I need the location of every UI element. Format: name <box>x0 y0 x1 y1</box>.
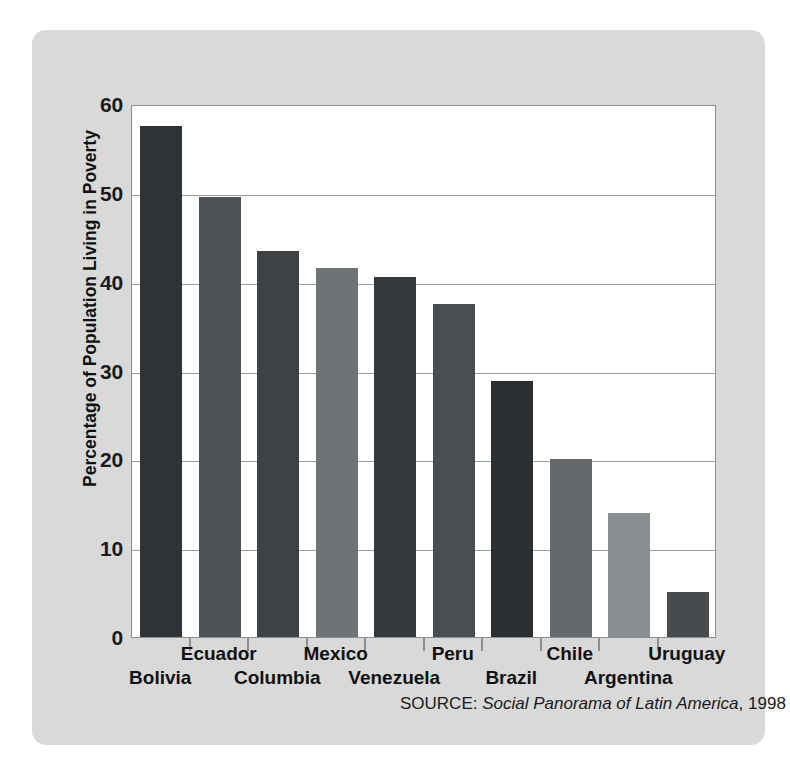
y-axis-tick-label: 60 <box>63 93 123 117</box>
x-axis-label-argentina: Argentina <box>584 667 673 689</box>
x-axis-label-uruguay: Uruguay <box>648 643 725 665</box>
x-axis-label-peru: Peru <box>432 643 474 665</box>
x-axis-tick-mark <box>540 638 542 651</box>
y-axis-tick-label: 50 <box>63 182 123 206</box>
bar <box>550 459 592 637</box>
y-axis-tick-label: 20 <box>63 448 123 472</box>
x-axis-label-brazil: Brazil <box>485 667 537 689</box>
x-axis-label-bolivia: Bolivia <box>129 667 191 689</box>
source-title: Social Panorama of Latin America <box>482 694 738 713</box>
bar <box>667 592 709 637</box>
bar <box>140 126 182 637</box>
source-note: SOURCE: Social Panorama of Latin America… <box>400 694 786 714</box>
y-axis-tick-label: 40 <box>63 271 123 295</box>
x-axis-label-mexico: Mexico <box>304 643 368 665</box>
x-axis-label-chile: Chile <box>547 643 593 665</box>
x-axis-label-columbia: Columbia <box>234 667 321 689</box>
source-year: , 1998 <box>739 694 786 713</box>
plot-area <box>131 105 716 638</box>
bar <box>491 381 533 637</box>
x-axis-tick-mark <box>423 638 425 651</box>
x-axis-label-ecuador: Ecuador <box>181 643 257 665</box>
bar <box>257 251 299 637</box>
x-axis-tick-mark <box>598 638 600 651</box>
bar <box>316 268 358 637</box>
source-prefix: SOURCE: <box>400 694 482 713</box>
x-axis-label-venezuela: Venezuela <box>348 667 440 689</box>
y-axis-tick-label: 10 <box>63 537 123 561</box>
x-axis-tick-mark <box>481 638 483 651</box>
y-axis-tick-label: 0 <box>63 626 123 650</box>
bar <box>433 304 475 637</box>
bar <box>374 277 416 637</box>
bar <box>608 513 650 637</box>
bar <box>199 197 241 637</box>
chart-figure-panel: Percentage of Population Living in Pover… <box>32 30 765 745</box>
bar-series <box>132 106 715 637</box>
y-axis-tick-label: 30 <box>63 360 123 384</box>
